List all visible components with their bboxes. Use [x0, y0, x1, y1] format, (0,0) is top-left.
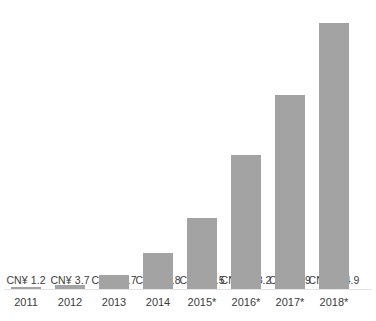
- x-axis-tick-label: 2014: [146, 297, 170, 308]
- x-axis-tick-label: 2012: [58, 297, 82, 308]
- x-axis-tick-label: 2011: [14, 297, 38, 308]
- bar[interactable]: [99, 275, 129, 289]
- bar-value-label: CN¥ 3.7: [50, 275, 89, 286]
- x-axis-tick-label: 2013: [102, 297, 126, 308]
- bar[interactable]: [187, 218, 217, 289]
- bar-chart: CN¥ 1.22011CN¥ 3.72012CN¥ 12.72013CN¥ 32…: [0, 0, 376, 321]
- bar[interactable]: [143, 253, 173, 289]
- bar[interactable]: [275, 95, 305, 289]
- bar-value-label: CN¥ 1.2: [6, 275, 45, 286]
- plot-area: CN¥ 1.22011CN¥ 3.72012CN¥ 12.72013CN¥ 32…: [0, 0, 376, 321]
- x-axis-tick-label: 2016*: [232, 297, 261, 308]
- axis-baseline: [4, 289, 372, 290]
- bar[interactable]: [319, 23, 349, 289]
- x-axis-tick-label: 2018*: [320, 297, 349, 308]
- x-axis-tick-label: 2017*: [276, 297, 305, 308]
- x-axis-tick-label: 2015*: [188, 297, 217, 308]
- bar[interactable]: [231, 155, 261, 289]
